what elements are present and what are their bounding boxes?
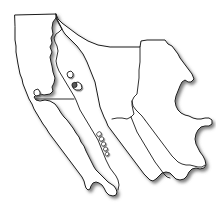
map-figure: Northwestern Mexico outline map Line-art… [0,0,216,224]
island-marker-north-gulf [72,82,77,87]
island-north-gulf-1 [67,71,73,78]
outline-map-svg: Northwestern Mexico outline map Line-art… [0,0,216,224]
island-pacific-bay [34,89,40,96]
